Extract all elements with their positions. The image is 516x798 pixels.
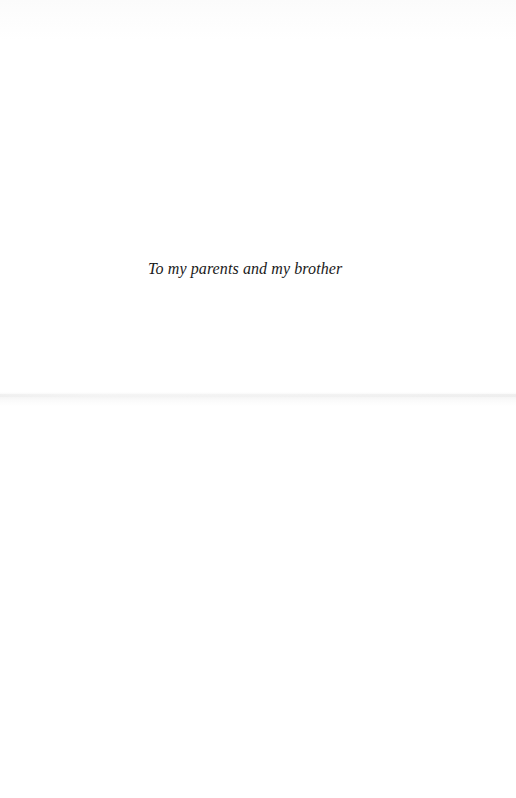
page-fold-line (0, 394, 516, 397)
book-page: To my parents and my brother (0, 0, 516, 798)
dedication-text: To my parents and my brother (0, 260, 516, 278)
